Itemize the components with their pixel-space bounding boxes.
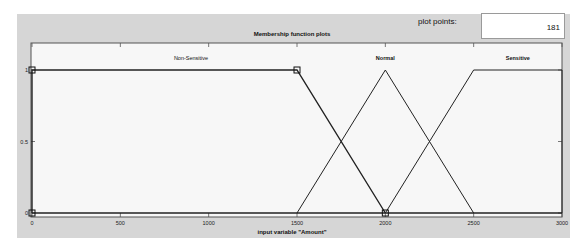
x-tick-label: 1000: [203, 220, 215, 226]
x-tick-label: 2000: [379, 220, 391, 226]
x-tick-label: 500: [116, 220, 125, 226]
curve-label: Normal: [376, 55, 395, 61]
plot-area: [31, 43, 562, 217]
y-tick-label: 0: [25, 210, 28, 216]
x-tick-label: 3000: [556, 220, 568, 226]
x-axis-label: input variable "Amount": [0, 229, 584, 235]
x-tick-label: 2500: [468, 220, 480, 226]
x-tick-label: 0: [30, 220, 33, 226]
y-tick-label: 1: [25, 67, 28, 73]
x-tick-label: 1500: [291, 220, 303, 226]
curve-label: Sensitive: [506, 55, 530, 61]
membership-plot[interactable]: 05001000150020002500300000.51Non-Sensiti…: [0, 0, 584, 251]
y-tick-label: 0.5: [20, 139, 28, 145]
curve-label: Non-Sensitive: [174, 55, 208, 61]
